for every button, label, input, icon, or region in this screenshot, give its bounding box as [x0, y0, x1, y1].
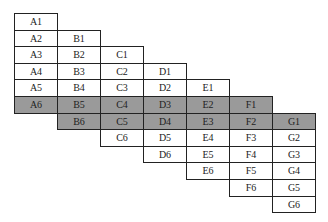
- cell-c2: C2: [100, 63, 144, 81]
- cell-e4: E4: [186, 129, 230, 147]
- cell-e1: E1: [186, 79, 230, 97]
- cell-e3: E3: [186, 113, 230, 131]
- cell-d2: D2: [143, 79, 187, 97]
- cell-b1: B1: [57, 30, 101, 48]
- cell-a5: A5: [14, 79, 58, 97]
- cell-d6: D6: [143, 146, 187, 164]
- cell-b2: B2: [57, 46, 101, 64]
- cell-f2: F2: [229, 113, 273, 131]
- cell-b6: B6: [57, 113, 101, 131]
- cell-f1: F1: [229, 96, 273, 114]
- cell-g2: G2: [272, 129, 316, 147]
- staggered-cell-diagram: A1A2A3A4A5A6B1B2B3B4B5B6C1C2C3C4C5C6D1D2…: [0, 0, 328, 222]
- cell-e6: E6: [186, 162, 230, 180]
- cell-e5: E5: [186, 146, 230, 164]
- cell-c3: C3: [100, 79, 144, 97]
- cell-d4: D4: [143, 113, 187, 131]
- cell-b4: B4: [57, 79, 101, 97]
- cell-f4: F4: [229, 146, 273, 164]
- cell-f6: F6: [229, 179, 273, 197]
- cell-d5: D5: [143, 129, 187, 147]
- cell-d3: D3: [143, 96, 187, 114]
- cell-b3: B3: [57, 63, 101, 81]
- cell-a4: A4: [14, 63, 58, 81]
- cell-c6: C6: [100, 129, 144, 147]
- cell-g1: G1: [272, 113, 316, 131]
- cell-b5: B5: [57, 96, 101, 114]
- cell-g5: G5: [272, 179, 316, 197]
- cell-g6: G6: [272, 196, 316, 214]
- cell-c1: C1: [100, 46, 144, 64]
- cell-g4: G4: [272, 162, 316, 180]
- cell-a2: A2: [14, 30, 58, 48]
- cell-a3: A3: [14, 46, 58, 64]
- cell-g3: G3: [272, 146, 316, 164]
- cell-d1: D1: [143, 63, 187, 81]
- cell-c5: C5: [100, 113, 144, 131]
- cell-f5: F5: [229, 162, 273, 180]
- cell-a1: A1: [14, 13, 58, 31]
- cell-a6: A6: [14, 96, 58, 114]
- cell-c4: C4: [100, 96, 144, 114]
- cell-e2: E2: [186, 96, 230, 114]
- cell-f3: F3: [229, 129, 273, 147]
